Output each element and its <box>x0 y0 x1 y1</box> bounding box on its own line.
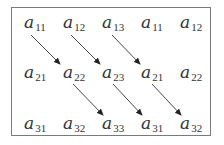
arrow-a23-a31 <box>113 84 142 115</box>
arrow-a12-a23 <box>71 35 100 64</box>
arrow-a11-a22 <box>31 35 60 64</box>
arrow-a13-a21 <box>112 35 140 64</box>
diagonal-arrows <box>0 0 224 145</box>
arrow-a22-a33 <box>73 84 103 115</box>
arrow-a21-a32 <box>152 84 181 115</box>
